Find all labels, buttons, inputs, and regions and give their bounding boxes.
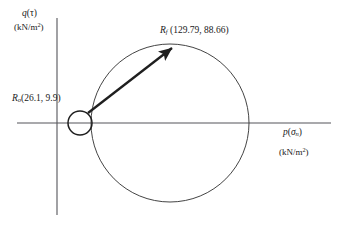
x-axis-close-paren: )	[299, 127, 302, 137]
x-axis-unit: (kN/m2)	[279, 146, 309, 157]
y-axis-label: q(τ)	[22, 8, 37, 19]
stress-path-vector	[88, 48, 172, 113]
y-axis-unit-close: )	[41, 22, 44, 32]
rf-coordinates: (129.79, 88.66)	[170, 25, 229, 35]
ro-coordinates: (26.1, 9.9)	[21, 93, 61, 103]
rf-subscript: f	[166, 28, 168, 35]
x-axis-label: p(σn)	[283, 127, 302, 138]
ro-point-label: Ro(26.1, 9.9)	[12, 93, 61, 104]
y-axis-unit: (kN/m2)	[14, 21, 44, 32]
rf-point-label: Rf (129.79, 88.66)	[160, 25, 229, 36]
x-axis-unit-close: )	[306, 147, 309, 157]
y-axis-symbol-paren: (τ)	[27, 8, 37, 18]
x-axis-unit-text: (kN/m	[279, 147, 303, 157]
stress-path-figure: q(τ) (kN/m2) p(σn) (kN/m2) Rf (129.79, 8…	[0, 0, 345, 227]
y-axis-unit-text: (kN/m	[14, 22, 38, 32]
